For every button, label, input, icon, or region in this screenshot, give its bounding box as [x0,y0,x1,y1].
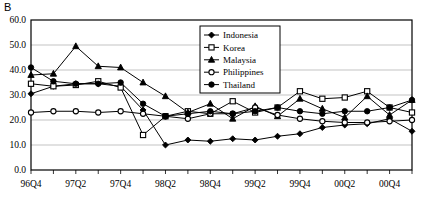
data-point [185,111,190,116]
data-point [185,137,191,143]
data-point [230,99,235,104]
figure-panel-b: B 0.010.020.030.040.050.060.096Q497Q297Q… [0,0,422,211]
data-point [51,84,56,89]
data-point [73,81,78,86]
legend-label: Thailand [223,80,255,90]
data-point [208,109,213,114]
x-tick-label: 00Q4 [379,179,400,189]
legend-label: Malaysia [223,55,256,65]
data-point [118,80,123,85]
data-point [297,89,302,94]
data-point [319,125,325,131]
data-point [162,142,168,148]
data-point [118,109,123,114]
data-point [409,128,415,134]
legend-marker [209,45,214,50]
data-point [162,93,168,99]
data-point [96,81,101,86]
y-tick-label: 60.0 [9,15,26,25]
x-tick-label: 98Q4 [200,179,221,189]
data-point [51,79,56,84]
data-point [73,109,78,114]
data-point [409,97,414,102]
legend-marker [209,70,214,75]
data-point [275,133,281,139]
data-point [230,111,235,116]
data-point [364,109,369,114]
data-point [275,105,280,110]
y-tick-label: 40.0 [9,65,26,75]
data-point [96,110,101,115]
y-tick-label: 0.0 [14,165,26,175]
x-tick-label: 99Q4 [289,179,310,189]
legend-marker [209,82,214,87]
y-tick-label: 20.0 [9,115,26,125]
data-point [140,79,146,85]
x-tick-label: 97Q2 [65,179,86,189]
data-point [365,120,370,125]
y-tick-label: 30.0 [9,90,26,100]
data-point [409,110,414,115]
x-tick-label: 99Q2 [245,179,266,189]
data-point [275,112,280,117]
legend: IndonesiaKoreaMalaysiaPhilippinesThailan… [200,26,280,93]
x-tick-label: 00Q2 [334,179,355,189]
legend-label: Indonesia [223,30,258,40]
data-point [320,111,325,116]
data-point [409,117,414,122]
data-point [320,96,325,101]
data-point [252,137,258,143]
data-point [342,120,347,125]
x-tick-label: 97Q4 [110,179,131,189]
data-point [140,132,145,137]
line-chart: 0.010.020.030.040.050.060.096Q497Q297Q49… [0,0,422,211]
data-point [51,109,56,114]
data-point [297,131,303,137]
y-tick-label: 10.0 [9,140,26,150]
data-point [320,119,325,124]
data-point [230,136,236,142]
data-point [297,109,302,114]
legend-label: Korea [223,43,245,53]
data-point [297,116,302,121]
data-point [342,109,347,114]
data-point [297,95,303,101]
data-point [386,112,392,118]
data-point [73,43,79,49]
data-point [185,116,190,121]
x-tick-label: 98Q2 [155,179,176,189]
data-point [342,95,347,100]
y-tick-label: 50.0 [9,40,26,50]
data-point [387,119,392,124]
legend-label: Philippines [223,67,264,77]
x-tick-label: 96Q4 [20,179,41,189]
data-point [207,100,213,106]
data-point [140,111,145,116]
data-point [28,110,33,115]
data-point [28,65,33,70]
data-point [28,81,33,86]
data-point [140,101,145,106]
data-point [28,91,34,97]
data-point [252,109,257,114]
data-point [163,114,168,119]
data-point [387,105,392,110]
data-point [207,138,213,144]
data-point [118,85,123,90]
